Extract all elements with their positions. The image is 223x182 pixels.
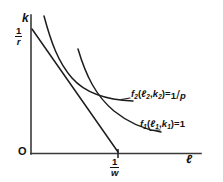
isocost-line: [32, 29, 118, 152]
curve-f2-value-denominator: p: [180, 90, 186, 101]
origin-label: O: [18, 146, 27, 157]
y-axis-label: k: [22, 12, 29, 24]
curve-f1-label: f1(ℓ1,k1)=1: [140, 119, 185, 129]
curve-f2-arg1-sub: 2: [146, 93, 150, 100]
curve-f1-leader: [150, 130, 160, 131]
isoquant-isocost-figure: k 1 r O 1 w ℓ f2(ℓ2,k2)=1/p f1(ℓ1,k1)=1: [0, 0, 223, 182]
fraction-denominator: w: [110, 167, 119, 178]
curve-f2-leader: [121, 98, 130, 100]
fraction-one-over-w: 1 w: [110, 157, 119, 178]
curve-f1-subscript: 1: [143, 123, 147, 130]
fraction-numerator: 1: [15, 26, 22, 36]
curve-f2-subscript: 2: [134, 93, 138, 100]
curve-f1-value: 1: [180, 118, 185, 129]
isoquant-curve-f2: [44, 16, 133, 101]
x-axis-tick-label: 1 w: [110, 157, 119, 178]
curve-f2-label: f2(ℓ2,k2)=1/p: [131, 88, 186, 101]
fraction-numerator: 1: [110, 157, 119, 167]
curve-f1-arg2-sub: 1: [167, 123, 171, 130]
x-axis-label: ℓ: [186, 153, 192, 165]
curve-f2-value: 1/p: [171, 88, 186, 101]
fraction-one-over-r: 1 r: [15, 26, 22, 47]
y-axis-tick-label: 1 r: [15, 26, 22, 47]
curve-f1-arg1-sub: 1: [155, 123, 159, 130]
fraction-denominator: r: [15, 36, 22, 47]
curve-f2-arg2-sub: 2: [158, 93, 162, 100]
